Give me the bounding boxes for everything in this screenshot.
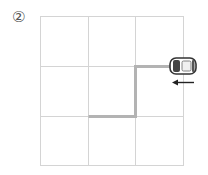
car-icon: [170, 58, 196, 74]
grid: [40, 16, 184, 166]
route-path: [89, 67, 173, 117]
grid-diagram: [0, 0, 208, 175]
